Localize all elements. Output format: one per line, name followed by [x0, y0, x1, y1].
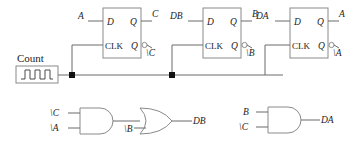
junction-dot-1: [69, 72, 75, 78]
flipflop-ff-b[interactable]: D CLK Q Q DB B \B: [169, 8, 258, 58]
gate-and-da[interactable]: B \C DA: [239, 107, 334, 133]
clock-source-body: [16, 66, 58, 83]
flipflop-ff-b-pin-q: Q: [230, 17, 237, 27]
flipflop-ff-b-body: [203, 8, 241, 58]
circuit-diagram-canvas: D CLK Q Q A C \C D CLK Q Q DB B \B: [0, 0, 354, 151]
flipflop-ff-c-qbar-bubble: [142, 42, 147, 47]
clock-branch-ff-c: [72, 45, 96, 75]
signal-label-a-in: A: [77, 11, 84, 21]
flipflop-ff-c[interactable]: D CLK Q Q A C \C: [77, 8, 159, 58]
gate-and-da-body: [268, 107, 301, 133]
flipflop-ff-a-pin-d: D: [293, 17, 301, 27]
signal-label-cbar: \C: [146, 48, 156, 58]
flipflop-ff-b-pin-qbar: Q: [231, 41, 238, 51]
flipflop-ff-a-body: [290, 8, 328, 58]
flipflop-ff-c-pin-clk: CLK: [105, 41, 124, 51]
flipflop-ff-b-qbar-bubble: [242, 42, 247, 47]
flipflop-ff-a-qbar-bubble: [329, 42, 334, 47]
circuit-schematic: D CLK Q Q A C \C D CLK Q Q DB B \B: [0, 0, 354, 151]
gate-or-db-body: [140, 108, 172, 134]
clock-source-label: Count: [17, 52, 44, 64]
flipflop-ff-b-pin-d: D: [206, 17, 214, 27]
flipflop-ff-c-body: [103, 8, 141, 58]
signal-label-da-in: DA: [255, 11, 269, 21]
flipflop-ff-c-pin-qbar: Q: [131, 41, 138, 51]
clock-source-count[interactable]: Count: [16, 52, 58, 83]
clock-branch-ff-a: [265, 45, 283, 75]
flipflop-ff-a-pin-q: Q: [317, 17, 324, 27]
gate-and-da-input-2-label: \C: [239, 122, 249, 132]
flipflop-ff-c-pin-d: D: [106, 17, 114, 27]
signal-label-c: C: [152, 9, 159, 19]
junction-dot-2: [169, 72, 175, 78]
flipflop-ff-c-pin-q: Q: [130, 17, 137, 27]
clock-branch-ff-b: [172, 45, 196, 75]
flipflop-ff-a[interactable]: D CLK Q Q DA A \A: [255, 8, 345, 58]
signal-label-abar: \A: [333, 48, 342, 58]
gate-or-db-output-label: DB: [192, 116, 206, 126]
flipflop-ff-b-pin-clk: CLK: [205, 41, 224, 51]
signal-label-bbar: \B: [246, 48, 255, 58]
flipflop-ff-a-pin-clk: CLK: [292, 41, 311, 51]
gate-and-da-output-label: DA: [320, 115, 334, 125]
gate-or-db-input-2-label: \B: [124, 124, 133, 134]
signal-label-db-in: DB: [169, 11, 183, 21]
gate-and-db-body: [80, 108, 113, 134]
flipflop-ff-a-pin-qbar: Q: [318, 41, 325, 51]
signal-label-a-out: A: [338, 9, 345, 19]
gate-and-da-input-1-label: B: [243, 107, 249, 117]
gate-and-db-input-1-label: \C: [50, 108, 60, 118]
gate-and-db-input-2-label: \A: [50, 123, 59, 133]
